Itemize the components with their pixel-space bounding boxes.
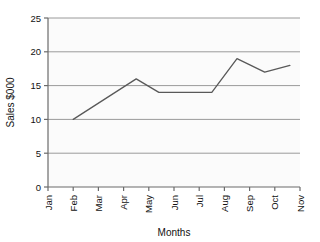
y-axis-tick-label: 0	[36, 182, 41, 193]
x-axis-ticks	[48, 187, 300, 191]
y-axis-tick-label: 25	[30, 13, 41, 24]
x-axis-tick-label: Mar	[93, 195, 104, 211]
x-axis-tick-label: Apr	[118, 195, 129, 210]
x-axis-tick-label: May	[143, 195, 154, 213]
x-axis-tick-labels: JanFebMarAprMayJunJulAugSepOctNov	[43, 195, 306, 213]
x-axis-tick-label: Jul	[194, 195, 205, 207]
chart-canvas: 0510152025 JanFebMarAprMayJunJulAugSepOc…	[0, 0, 320, 242]
x-axis-tick-label: Sep	[244, 195, 255, 212]
x-axis-tick-label: Nov	[295, 195, 306, 212]
y-axis-tick-label: 10	[30, 114, 41, 125]
x-axis-tick-label: Jun	[169, 195, 180, 210]
line-chart: 0510152025 JanFebMarAprMayJunJulAugSepOc…	[0, 0, 320, 242]
x-axis-tick-label: Jan	[43, 195, 54, 210]
x-axis-title: Months	[158, 227, 191, 238]
x-axis-tick-label: Aug	[219, 195, 230, 212]
y-axis-title: Sales $000	[5, 77, 16, 127]
x-axis-tick-label: Oct	[269, 195, 280, 210]
y-axis-tick-labels: 0510152025	[30, 13, 41, 193]
y-axis-tick-label: 15	[30, 80, 41, 91]
plot-background	[48, 18, 300, 187]
x-axis-tick-label: Feb	[68, 195, 79, 211]
y-axis-tick-label: 20	[30, 46, 41, 57]
y-axis-tick-label: 5	[36, 148, 41, 159]
